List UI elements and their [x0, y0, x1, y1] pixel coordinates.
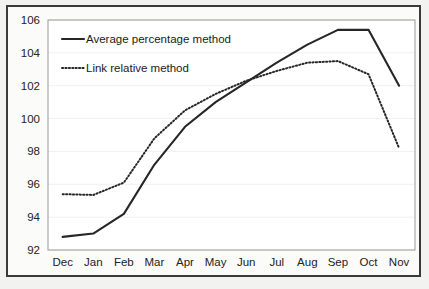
- plot-area-background: [48, 20, 415, 250]
- y-axis-tick-label: 106: [21, 14, 40, 26]
- legend-label-0: Average percentage method: [86, 33, 231, 45]
- plot-wrapper: 92949698100102104106DecJanFebMarAprMayJu…: [0, 0, 429, 289]
- y-axis-tick-label: 96: [27, 178, 40, 190]
- y-axis-tick-label: 92: [27, 244, 40, 256]
- y-axis-tick-label: 100: [21, 113, 40, 125]
- x-axis-tick-label: Aug: [297, 256, 317, 268]
- x-axis-tick-label: Dec: [52, 256, 73, 268]
- x-axis-tick-label: Jun: [237, 256, 256, 268]
- y-axis-tick-label: 102: [21, 80, 40, 92]
- x-axis-tick-label: Sep: [328, 256, 348, 268]
- x-axis-tick-label: Jan: [84, 256, 103, 268]
- x-axis-tick-label: Oct: [360, 256, 379, 268]
- x-axis-tick-label: May: [205, 256, 227, 268]
- line-chart: 92949698100102104106DecJanFebMarAprMayJu…: [0, 0, 429, 289]
- x-axis-tick-label: Apr: [176, 256, 194, 268]
- x-axis-tick-label: Jul: [269, 256, 284, 268]
- y-axis-tick-label: 94: [27, 211, 40, 223]
- y-axis-tick-label: 104: [21, 47, 41, 59]
- x-axis-tick-label: Nov: [389, 256, 410, 268]
- x-axis-tick-label: Feb: [114, 256, 134, 268]
- chart-figure: 92949698100102104106DecJanFebMarAprMayJu…: [0, 0, 429, 289]
- x-axis-tick-label: Mar: [145, 256, 165, 268]
- y-axis-tick-label: 98: [27, 145, 40, 157]
- legend-label-1: Link relative method: [86, 62, 189, 74]
